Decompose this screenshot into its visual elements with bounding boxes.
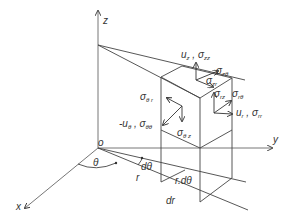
s-zr-label: σzr [206,75,218,87]
r-label: r [136,172,140,183]
x-axis [25,148,98,208]
element-box [161,66,232,202]
x-axis-label: x [15,201,22,212]
axes [25,11,272,208]
dtheta-label: dθ [141,161,153,172]
top-face-front-edge [161,77,200,98]
theta-arc-tip [115,162,117,164]
ur-srr-label: ur , σrr [236,107,263,119]
utheta-arrow [163,106,182,125]
stress-element-diagram: z y x o θ dθ r r.dθ dr uz , σzz σzθ σzr … [0,0,289,224]
sigma-thetar-arrow [167,98,182,106]
dr-label: dr [166,195,176,206]
s-ztheta-label: σzθ [216,65,229,77]
z-axis-label: z [102,15,108,26]
s-thetar-label: σθ r [140,91,154,103]
sigma-rtheta-arrow [214,101,231,113]
r-dtheta-label: r.dθ [175,175,192,186]
top-face-inner-edge [161,66,182,77]
origin-label: o [98,137,104,148]
theta-face-arrows [163,98,182,125]
theta-label: θ [93,157,99,168]
s-rz-label: σrz [214,88,225,100]
uz-szz-label: uz , σzz [181,49,210,61]
utheta-stheta-label: -uθ , σθθ [119,118,153,130]
dtheta-arc-tip [141,157,143,159]
base-edge-outer [200,178,232,202]
ur-arrow [214,113,232,114]
r-face-lower-edge [200,130,232,148]
s-rtheta-label: σrθ [232,88,244,100]
y-axis-label: y [272,134,279,145]
s-thetaz-label: σθ z [177,127,191,139]
